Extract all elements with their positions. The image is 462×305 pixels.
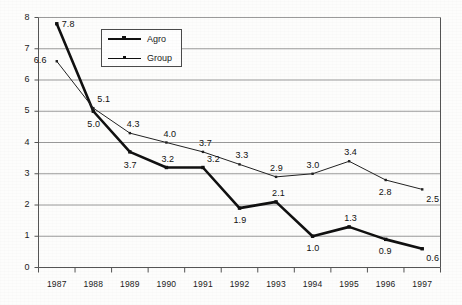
x-axis-tick-label: 1996 bbox=[366, 279, 406, 289]
data-point-marker-group bbox=[275, 176, 277, 178]
data-point-marker-group bbox=[129, 132, 131, 134]
y-axis-tick-label: 8 bbox=[8, 12, 30, 22]
plot-canvas bbox=[0, 0, 462, 305]
x-axis-tick-label: 1992 bbox=[220, 279, 260, 289]
data-point-value-label: 1.9 bbox=[234, 215, 247, 225]
data-point-value-label: 3.3 bbox=[236, 150, 249, 160]
data-point-value-label: 3.2 bbox=[161, 154, 174, 164]
y-axis-tick-label: 4 bbox=[8, 137, 30, 147]
data-point-marker-agro bbox=[165, 166, 168, 169]
data-point-marker-group bbox=[421, 188, 423, 190]
y-axis-tick-label: 0 bbox=[8, 262, 30, 272]
y-axis-tick-label: 3 bbox=[8, 168, 30, 178]
data-point-value-label: 2.9 bbox=[270, 163, 283, 173]
data-point-marker-agro bbox=[311, 235, 314, 238]
data-point-value-label: 7.8 bbox=[62, 19, 75, 29]
data-point-value-label: 2.5 bbox=[426, 194, 439, 204]
x-axis-tick-label: 1989 bbox=[110, 279, 150, 289]
data-point-value-label: 0.9 bbox=[379, 246, 392, 256]
data-point-value-label: 5.1 bbox=[97, 94, 110, 104]
data-point-marker-group bbox=[202, 151, 204, 153]
data-point-value-label: 3.2 bbox=[207, 154, 220, 164]
data-point-marker-agro bbox=[238, 206, 241, 209]
x-axis-tick-label: 1994 bbox=[293, 279, 333, 289]
data-point-marker-agro bbox=[384, 238, 387, 241]
x-axis-tick-label: 1990 bbox=[146, 279, 186, 289]
x-axis-tick-label: 1993 bbox=[256, 279, 296, 289]
legend-label-group: Group bbox=[147, 53, 172, 63]
x-axis-tick-label: 1987 bbox=[37, 279, 77, 289]
data-point-value-label: 4.0 bbox=[163, 129, 176, 139]
y-axis-tick-label: 5 bbox=[8, 105, 30, 115]
data-point-value-label: 5.0 bbox=[87, 119, 100, 129]
x-axis-tick-label: 1988 bbox=[73, 279, 113, 289]
data-point-value-label: 2.8 bbox=[379, 187, 392, 197]
data-point-value-label: 1.3 bbox=[344, 213, 357, 223]
data-point-marker-group bbox=[92, 107, 94, 109]
data-point-marker-agro bbox=[55, 22, 58, 25]
line-chart: 012345678 198719881989199019911992199319… bbox=[0, 0, 462, 305]
legend-entry-group: Group bbox=[102, 49, 181, 68]
x-axis-tick-label: 1991 bbox=[183, 279, 223, 289]
data-point-marker-group bbox=[56, 60, 58, 62]
x-axis-tick-label: 1997 bbox=[402, 279, 442, 289]
legend-marker-agro bbox=[122, 36, 126, 40]
data-point-marker-agro bbox=[92, 110, 95, 113]
legend-entry-agro: Agro bbox=[102, 30, 181, 49]
data-point-marker-agro bbox=[421, 247, 424, 250]
x-axis-tick-label: 1995 bbox=[329, 279, 369, 289]
data-point-marker-agro bbox=[201, 166, 204, 169]
axis-ticks bbox=[35, 18, 441, 273]
legend-marker-group bbox=[123, 56, 126, 59]
chart-legend: Agro Group bbox=[101, 29, 182, 67]
y-axis-tick-label: 2 bbox=[8, 199, 30, 209]
data-point-value-label: 4.3 bbox=[127, 119, 140, 129]
data-point-marker-group bbox=[311, 173, 313, 175]
data-point-value-label: 6.6 bbox=[34, 55, 47, 65]
data-point-value-label: 2.1 bbox=[272, 188, 285, 198]
data-point-value-label: 1.0 bbox=[307, 243, 320, 253]
data-point-marker-agro bbox=[274, 200, 277, 203]
y-axis-tick-label: 7 bbox=[8, 43, 30, 53]
legend-label-agro: Agro bbox=[147, 34, 166, 44]
data-point-marker-group bbox=[348, 160, 350, 162]
y-axis-tick-label: 1 bbox=[8, 230, 30, 240]
data-point-value-label: 3.4 bbox=[344, 147, 357, 157]
data-point-marker-agro bbox=[347, 225, 350, 228]
data-point-value-label: 3.7 bbox=[124, 160, 137, 170]
data-point-marker-group bbox=[165, 141, 167, 143]
data-point-marker-agro bbox=[128, 150, 131, 153]
data-point-marker-group bbox=[384, 179, 386, 181]
data-point-value-label: 3.7 bbox=[199, 138, 212, 148]
data-point-value-label: 0.6 bbox=[426, 253, 439, 263]
data-point-value-label: 3.0 bbox=[307, 160, 320, 170]
y-axis-tick-label: 6 bbox=[8, 74, 30, 84]
data-point-marker-group bbox=[238, 163, 240, 165]
